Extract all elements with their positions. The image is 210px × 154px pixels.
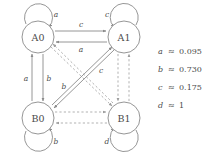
edge-label-b0-a0: a — [24, 74, 28, 83]
legend-value-c: 0.175 — [179, 83, 202, 92]
edge-label-b0-a1: c — [99, 66, 104, 75]
node-b1-label: B1 — [117, 113, 130, 124]
edge-b0-b1-bottom — [55, 112, 107, 123]
edge-label-a1-a0: a — [79, 45, 83, 54]
node-a1-label: A1 — [117, 32, 131, 43]
edge-label-a1-b0: b — [62, 82, 67, 91]
legend-value-a: 0.095 — [179, 47, 202, 56]
legend: a ≈ 0.095 b ≈ 0.730 c ≈ 0.175 d ≈ 1 — [158, 47, 202, 110]
legend-relation-c: ≈ — [168, 83, 175, 92]
legend-value-d: 1 — [179, 101, 184, 110]
edge-a0-b0-left — [32, 54, 43, 101]
self-loop-label-a1: c — [105, 10, 110, 19]
node-b0[interactable]: B0 — [22, 102, 54, 134]
legend-symbol-d: d — [158, 101, 163, 110]
node-a1[interactable]: A1 — [108, 21, 140, 53]
node-b0-label: B0 — [31, 113, 44, 124]
legend-item-d: d ≈ 1 — [158, 101, 184, 110]
self-loop-label-b0: b — [54, 137, 59, 146]
legend-relation-b: ≈ — [168, 65, 175, 74]
edge-a1-b1-right — [118, 54, 129, 101]
node-b1[interactable]: B1 — [108, 102, 140, 134]
legend-symbol-b: b — [158, 65, 163, 74]
self-loop-label-b1: d — [105, 137, 110, 146]
self-loop-label-a0: a — [54, 10, 58, 19]
node-a0[interactable]: A0 — [22, 21, 54, 53]
legend-item-a: a ≈ 0.095 — [158, 47, 202, 56]
edge-label-a0-a1: c — [79, 20, 84, 29]
legend-item-b: b ≈ 0.730 — [158, 65, 202, 74]
legend-relation-d: ≈ — [168, 101, 175, 110]
node-a0-label: A0 — [31, 32, 45, 43]
legend-value-b: 0.730 — [179, 65, 202, 74]
edge-a0-a1-top — [55, 31, 107, 42]
edge-label-a0-b0: b — [47, 74, 52, 83]
legend-item-c: c ≈ 0.175 — [158, 83, 202, 92]
legend-symbol-a: a — [158, 47, 163, 56]
legend-relation-a: ≈ — [168, 47, 175, 56]
state-transition-figure: A0 A1 B0 B1 a c b d c a a b c b a ≈ — [0, 0, 210, 154]
graph-canvas: A0 A1 B0 B1 a c b d c a a b c b a ≈ — [0, 0, 210, 154]
legend-symbol-c: c — [158, 83, 163, 92]
